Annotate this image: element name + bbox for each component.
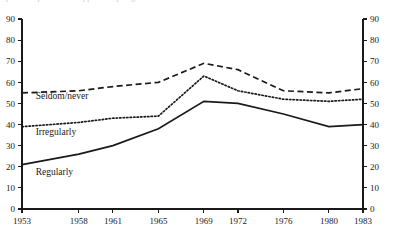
series-line-seldom-never bbox=[22, 63, 363, 93]
x-axis-tick-label: 1969 bbox=[195, 216, 214, 226]
line-chart: 0102030405060708090010203040506070809019… bbox=[0, 0, 397, 244]
y-axis-left-tick-label: 60 bbox=[6, 78, 16, 88]
series-label-regularly: Regularly bbox=[36, 167, 74, 177]
y-axis-right-tick-label: 70 bbox=[370, 56, 380, 66]
x-axis-tick-label: 1983 bbox=[354, 216, 373, 226]
y-axis-right-tick-label: 10 bbox=[370, 183, 380, 193]
x-axis-tick-label: 1953 bbox=[13, 216, 32, 226]
y-axis-left-tick-label: 90 bbox=[6, 14, 16, 24]
y-axis-right-tick-label: 20 bbox=[370, 162, 380, 172]
y-axis-left-tick-label: 20 bbox=[6, 162, 16, 172]
chart-series-labels: Seldom/neverIrregularlyRegularly bbox=[36, 91, 90, 177]
y-axis-right-tick-label: 80 bbox=[370, 35, 380, 45]
x-axis-tick-label: 1961 bbox=[104, 216, 122, 226]
y-axis-right-tick-label: 0 bbox=[370, 204, 375, 214]
chart-series bbox=[22, 63, 363, 164]
y-axis-left-tick-label: 30 bbox=[6, 141, 16, 151]
y-axis-right-tick-label: 40 bbox=[370, 120, 380, 130]
series-line-irregularly bbox=[22, 76, 363, 127]
x-axis-tick-label: 1958 bbox=[70, 216, 89, 226]
y-axis-right-tick-label: 90 bbox=[370, 14, 380, 24]
y-axis-left-tick-label: 50 bbox=[6, 99, 16, 109]
y-axis-left-tick-label: 80 bbox=[6, 35, 16, 45]
x-axis-tick-label: 1980 bbox=[320, 216, 339, 226]
y-axis-left-tick-label: 10 bbox=[6, 183, 16, 193]
x-axis-tick-label: 1976 bbox=[274, 216, 293, 226]
y-axis-right-tick-label: 60 bbox=[370, 78, 380, 88]
y-axis-right-tick-label: 50 bbox=[370, 99, 380, 109]
series-label-seldom-never: Seldom/never bbox=[36, 91, 90, 101]
y-axis-right-tick-label: 30 bbox=[370, 141, 380, 151]
chart-axes: 0102030405060708090010203040506070809019… bbox=[6, 14, 380, 226]
x-axis-tick-label: 1965 bbox=[149, 216, 168, 226]
x-axis-tick-label: 1972 bbox=[229, 216, 247, 226]
series-label-irregularly: Irregularly bbox=[36, 127, 77, 137]
y-axis-left-tick-label: 0 bbox=[11, 204, 16, 214]
y-axis-left-tick-label: 40 bbox=[6, 120, 16, 130]
y-axis-left-tick-label: 70 bbox=[6, 56, 16, 66]
figure-container: partial caption text cropped at top edge… bbox=[0, 0, 397, 244]
